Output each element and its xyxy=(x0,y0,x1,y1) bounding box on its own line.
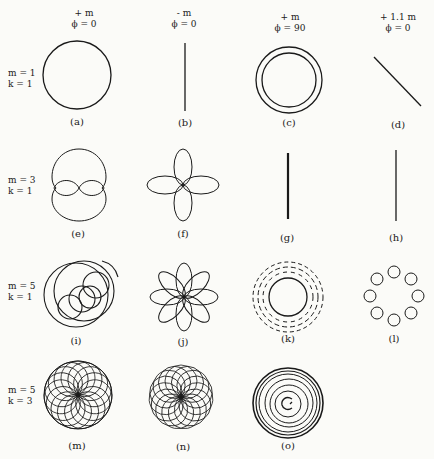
row-label-m: m = 5 xyxy=(8,281,36,292)
caption-o: (o) xyxy=(273,440,303,451)
column-header-4: + 1.1 m ϕ = 0 xyxy=(368,12,428,34)
caption-a: (a) xyxy=(62,116,92,127)
caption-b: (b) xyxy=(170,117,200,128)
caption-c: (c) xyxy=(274,117,304,128)
column-header-1: + m ϕ = 0 xyxy=(54,8,114,30)
caption-m: (m) xyxy=(62,440,92,451)
figure-f-four-petal-rose xyxy=(145,145,220,225)
column-header-phase: ϕ = 90 xyxy=(260,23,320,34)
column-header-2: - m ϕ = 0 xyxy=(154,8,214,30)
caption-n: (n) xyxy=(168,441,198,452)
column-header-sign: + m xyxy=(54,8,114,19)
row-label-1: m = 1 k = 1 xyxy=(8,68,36,90)
caption-i: (i) xyxy=(61,335,91,346)
row-label-3: m = 5 k = 1 xyxy=(8,281,36,303)
column-header-3: + m ϕ = 90 xyxy=(260,12,320,34)
figure-a-circle xyxy=(40,40,120,120)
figure-i-overlapping-loops xyxy=(40,255,120,335)
row-label-m: m = 5 xyxy=(8,385,36,396)
caption-j: (j) xyxy=(168,336,198,347)
column-header-sign: - m xyxy=(154,8,214,19)
caption-g: (g) xyxy=(272,232,302,243)
row-label-k: k = 1 xyxy=(8,292,36,303)
row-label-4: m = 5 k = 3 xyxy=(8,385,36,407)
row-label-2: m = 3 k = 1 xyxy=(8,175,36,197)
figure-b-vertical-line xyxy=(180,40,190,120)
figure-d-diagonal-line xyxy=(370,55,430,110)
caption-f: (f) xyxy=(168,228,198,239)
column-header-phase: ϕ = 0 xyxy=(368,23,428,34)
figure-k-dashed-rings xyxy=(250,260,330,335)
caption-d: (d) xyxy=(383,119,413,130)
column-header-sign: + 1.1 m xyxy=(368,12,428,23)
caption-e: (e) xyxy=(63,228,93,239)
figure-n-rosette xyxy=(145,360,225,435)
figure-o-concentric-spiral xyxy=(252,368,327,443)
caption-h: (h) xyxy=(381,232,411,243)
caption-k: (k) xyxy=(273,333,303,344)
row-label-k: k = 1 xyxy=(8,186,36,197)
column-header-phase: ϕ = 0 xyxy=(154,19,214,30)
figure-h-thin-vertical-line xyxy=(391,147,401,227)
column-header-phase: ϕ = 0 xyxy=(54,19,114,30)
row-label-m: m = 1 xyxy=(8,68,36,79)
figure-e-circle-two-lobes xyxy=(50,145,110,220)
figure-c-double-circle xyxy=(255,45,330,120)
figure-g-thick-vertical-line xyxy=(283,150,293,225)
caption-l: (l) xyxy=(379,333,409,344)
figure-j-eight-petal-rose xyxy=(148,260,228,335)
row-label-k: k = 1 xyxy=(8,79,36,90)
row-label-m: m = 3 xyxy=(8,175,36,186)
row-label-k: k = 3 xyxy=(8,396,36,407)
column-header-sign: + m xyxy=(260,12,320,23)
figure-m-rosette-in-circle xyxy=(40,358,120,438)
figure-l-epicycloid xyxy=(360,262,430,332)
